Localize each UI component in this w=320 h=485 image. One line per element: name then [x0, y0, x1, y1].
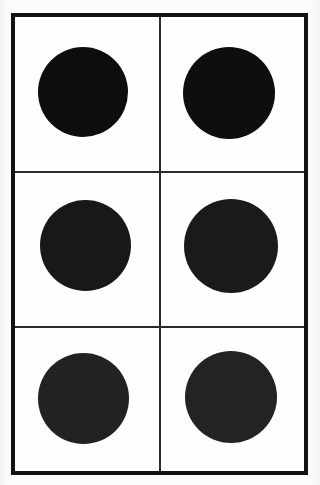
circle-r3c2	[185, 351, 277, 443]
circle-r2c1	[40, 200, 131, 291]
circle-r1c1	[38, 47, 128, 137]
figure-plate	[15, 17, 304, 471]
circle-r1c2	[183, 47, 275, 139]
figure-root	[0, 0, 320, 485]
circle-r3c1	[38, 353, 129, 444]
figure-outer-frame	[11, 13, 308, 475]
circle-r2c2	[184, 199, 278, 293]
